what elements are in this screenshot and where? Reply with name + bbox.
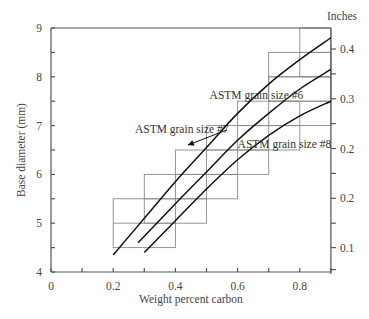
y2-tick-label: 0.2	[340, 143, 355, 155]
y-tick-label: 4	[36, 266, 42, 278]
annotation-label: ASTM grain size #8	[238, 138, 332, 151]
x-axis-title: Weight percent carbon	[139, 293, 243, 306]
x-tick-label: 0	[48, 280, 54, 292]
y2-axis-title: Inches	[327, 10, 358, 22]
y2-tick-label: 0.1	[340, 242, 355, 254]
x-tick-label: 0.6	[230, 280, 245, 292]
chart: 00.20.40.60.84567890.40.30.20.20.1 Weigh…	[0, 0, 369, 319]
x-tick-label: 0.4	[168, 280, 183, 292]
y-tick-label: 9	[36, 22, 42, 34]
y-axis-title: Base diameter (mm)	[15, 103, 28, 197]
y2-tick-label: 0.3	[340, 93, 355, 105]
axes: 00.20.40.60.84567890.40.30.20.20.1	[36, 22, 354, 292]
y-tick-label: 6	[36, 168, 42, 180]
annotation-label: ASTM grain size #6	[210, 89, 304, 102]
x-tick-label: 0.2	[106, 280, 121, 292]
y2-tick-label: 0.4	[340, 43, 355, 55]
y-tick-label: 8	[36, 71, 42, 83]
y-tick-label: 5	[36, 217, 42, 229]
y-tick-label: 7	[36, 120, 42, 132]
x-tick-label: 0.8	[293, 280, 308, 292]
y2-tick-label: 0.2	[340, 192, 355, 204]
annotation-label: ASTM grain size #7	[135, 123, 229, 136]
